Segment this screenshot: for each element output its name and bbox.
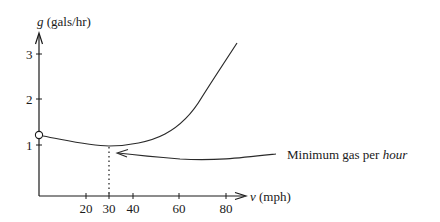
gas-curve <box>43 43 237 146</box>
x-tick-label-40: 40 <box>127 201 140 216</box>
x-tick-label-30: 30 <box>103 201 116 216</box>
y-tick-label-1: 1 <box>26 138 33 153</box>
annotation-minimum-gas: Minimum gas per hour <box>287 147 408 162</box>
gas-consumption-chart: 3 2 1 20 30 40 60 80 g (gals/hr) v (mph)… <box>0 0 440 222</box>
annotation-arrow-line <box>118 153 276 160</box>
y-tick-label-3: 3 <box>26 47 33 62</box>
start-open-circle-icon <box>35 131 42 138</box>
x-axis-label: v (mph) <box>250 189 291 204</box>
x-tick-label-80: 80 <box>220 201 233 216</box>
x-tick-label-60: 60 <box>173 201 186 216</box>
x-tick-label-20: 20 <box>80 201 93 216</box>
y-axis-label: g (gals/hr) <box>37 14 91 29</box>
y-tick-label-2: 2 <box>26 92 33 107</box>
